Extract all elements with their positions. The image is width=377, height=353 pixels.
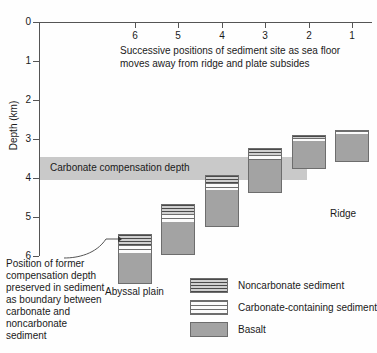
layer-noncarbonate bbox=[206, 176, 238, 183]
y-tick-3 bbox=[33, 139, 39, 140]
layer-basalt bbox=[293, 141, 325, 169]
legend-item-carbonate: Carbonate-containing sediment bbox=[190, 298, 377, 317]
layer-carbonate bbox=[162, 214, 194, 222]
layer-noncarbonate bbox=[162, 205, 194, 214]
x-tick-4 bbox=[222, 22, 223, 28]
layer-carbonate bbox=[119, 245, 151, 253]
x-tick-label-2: 2 bbox=[301, 30, 317, 41]
x-tick-2 bbox=[309, 22, 310, 28]
annotation-text: Position of former compensation depth pr… bbox=[6, 258, 110, 342]
column-position-5 bbox=[161, 204, 195, 255]
y-tick-label-4: 4 bbox=[18, 173, 31, 183]
column-position-1 bbox=[335, 130, 369, 162]
y-tick-label-2: 2 bbox=[18, 95, 31, 105]
x-tick-5 bbox=[178, 22, 179, 28]
x-tick-label-4: 4 bbox=[214, 30, 230, 41]
column-position-6 bbox=[118, 234, 152, 284]
legend-swatch-basalt bbox=[190, 322, 228, 337]
x-tick-3 bbox=[265, 22, 266, 28]
legend-item-noncarbonate: Noncarbonate sediment bbox=[190, 276, 377, 295]
legend-label-carbonate: Carbonate-containing sediment bbox=[238, 302, 377, 313]
y-tick-4 bbox=[33, 178, 39, 179]
y-tick-label-1: 1 bbox=[18, 56, 31, 66]
leader-arrow-icon bbox=[62, 236, 122, 262]
legend-swatch-carbonate bbox=[190, 300, 228, 315]
layer-basalt bbox=[119, 253, 151, 284]
y-tick-0 bbox=[33, 22, 39, 23]
x-tick-label-5: 5 bbox=[170, 30, 186, 41]
layer-basalt bbox=[336, 134, 368, 162]
x-tick-6 bbox=[135, 22, 136, 28]
y-tick-label-3: 3 bbox=[18, 134, 31, 144]
legend-label-basalt: Basalt bbox=[238, 324, 266, 335]
y-tick-5 bbox=[33, 217, 39, 218]
y-tick-2 bbox=[33, 100, 39, 101]
y-axis-line bbox=[39, 22, 40, 256]
legend-item-basalt: Basalt bbox=[190, 320, 377, 339]
column-position-3 bbox=[248, 148, 282, 193]
y-tick-label-0: 0 bbox=[18, 17, 31, 27]
y-tick-1 bbox=[33, 61, 39, 62]
y-axis-title: Depth (km) bbox=[8, 86, 19, 166]
top-note-text: Successive positions of sediment site as… bbox=[120, 44, 370, 70]
layer-basalt bbox=[249, 160, 281, 193]
legend-swatch-noncarbonate bbox=[190, 278, 228, 293]
y-tick-label-5: 5 bbox=[18, 212, 31, 222]
layer-basalt bbox=[206, 190, 238, 227]
column-position-2 bbox=[292, 135, 326, 169]
layer-carbonate bbox=[206, 183, 238, 190]
legend: Noncarbonate sediment Carbonate-containi… bbox=[190, 276, 377, 342]
ridge-label: Ridge bbox=[330, 208, 356, 219]
legend-label-noncarbonate: Noncarbonate sediment bbox=[238, 280, 344, 291]
x-tick-label-1: 1 bbox=[344, 30, 360, 41]
ccd-band-label: Carbonate compensation depth bbox=[50, 162, 190, 174]
abyssal-plain-label: Abyssal plain bbox=[105, 286, 164, 297]
column-position-4 bbox=[205, 175, 239, 227]
layer-noncarbonate bbox=[119, 235, 151, 245]
y-tick-6 bbox=[33, 256, 39, 257]
x-axis-line bbox=[39, 22, 372, 23]
layer-basalt bbox=[162, 222, 194, 255]
x-tick-label-3: 3 bbox=[257, 30, 273, 41]
x-tick-label-6: 6 bbox=[127, 30, 143, 41]
sediment-subsidence-figure: Depth (km) 0 1 2 3 4 5 6 6 5 4 3 2 1 Suc… bbox=[0, 0, 377, 353]
x-tick-1 bbox=[352, 22, 353, 28]
